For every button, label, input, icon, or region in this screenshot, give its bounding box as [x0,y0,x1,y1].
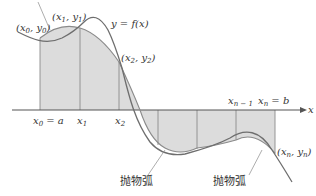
axis-arrow-icon [300,107,307,113]
axis-label-x: x [308,104,314,115]
tick-label-x1: x1 [77,115,87,128]
parabola-label-right: 抛物弧 [213,174,246,188]
point-label-xn-yn: (xn, yn) [277,146,312,159]
tick-label-x2: x2 [115,115,126,128]
point-label-x1-y1: (x1, y1) [52,11,87,24]
simpson-rule-diagram: (x0, y0) (x1, y1) y = f(x) (x2, y2) (xn,… [0,0,316,196]
shaded-area [40,26,275,153]
tick-label-xn: xn = b [258,95,289,108]
curve-label: y = f(x) [110,18,149,29]
parabola-label-left: 抛物弧 [120,174,153,188]
tick-label-x0: x0 = a [33,115,64,128]
point-label-x2-y2: (x2, y2) [121,52,156,65]
tick-label-xn-1: xn − 1 [228,95,253,108]
